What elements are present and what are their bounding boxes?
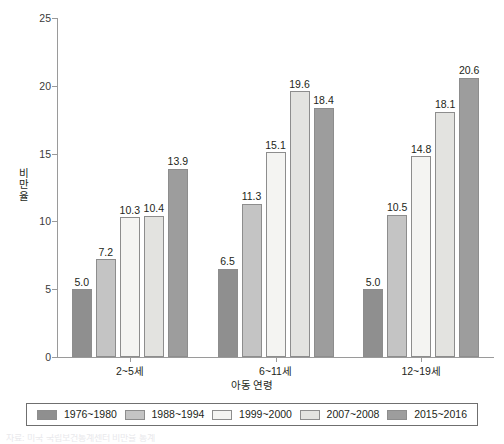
y-tick-mark: [52, 221, 57, 222]
bar-value-label: 18.1: [435, 99, 455, 110]
y-tick-mark: [52, 357, 57, 358]
y-tick-label: 15: [39, 148, 51, 159]
bar: 13.9: [168, 169, 188, 357]
bar: 10.3: [120, 217, 140, 357]
bar: 14.8: [411, 156, 431, 357]
bar: 5.0: [363, 289, 383, 357]
bar-value-label: 6.5: [220, 256, 235, 267]
x-tick-label: 12~19세: [401, 366, 441, 377]
legend-label: 2007~2008: [327, 409, 380, 420]
x-tick-mark: [130, 357, 131, 362]
y-axis-title-char-3: 율: [16, 191, 32, 202]
y-tick-label: 0: [45, 352, 51, 363]
source-note: 자료: 미국 국립보건통계센터 비만율 통계: [6, 434, 155, 442]
x-axis-title: 아동 연령: [0, 377, 504, 392]
legend-label: 1999~2000: [239, 409, 292, 420]
legend-swatch-icon: [300, 410, 320, 420]
bar-value-label: 13.9: [168, 156, 188, 167]
legend-label: 1976~1980: [64, 409, 117, 420]
obesity-rate-bar-chart: 비만율 0510152025 2~5세6~11세12~19세 5.07.210.…: [0, 0, 504, 444]
bar-value-label: 20.6: [459, 65, 479, 76]
y-tick-mark: [52, 86, 57, 87]
legend-item[interactable]: 1988~1994: [125, 409, 205, 420]
y-tick-label: 5: [45, 284, 51, 295]
bar: 15.1: [266, 152, 286, 357]
bar: 18.1: [435, 112, 455, 357]
bar: 11.3: [242, 204, 262, 357]
y-tick-label: 20: [39, 81, 51, 92]
legend-swatch-icon: [212, 410, 232, 420]
legend-swatch-icon: [37, 410, 57, 420]
bar-value-label: 15.1: [265, 140, 285, 151]
legend-label: 1988~1994: [152, 409, 205, 420]
bar: 20.6: [459, 78, 479, 357]
bar-value-label: 5.0: [366, 277, 381, 288]
bar: 6.5: [218, 269, 238, 357]
bar-value-label: 5.0: [75, 277, 90, 288]
legend-label: 2015~2016: [414, 409, 467, 420]
legend-item[interactable]: 1999~2000: [212, 409, 292, 420]
legend-item[interactable]: 2015~2016: [387, 409, 467, 420]
bar: 7.2: [96, 259, 116, 357]
x-tick-mark: [276, 357, 277, 362]
y-axis-title: 비만율: [16, 168, 32, 202]
y-tick-mark: [52, 18, 57, 19]
legend-item[interactable]: 2007~2008: [300, 409, 380, 420]
x-tick-label: 6~11세: [259, 366, 292, 377]
bar-value-label: 14.8: [411, 144, 431, 155]
bar-value-label: 10.3: [120, 205, 140, 216]
x-tick-mark: [421, 357, 422, 362]
bar: 10.4: [144, 216, 164, 357]
bar: 18.4: [314, 108, 334, 358]
x-tick-label: 2~5세: [116, 366, 144, 377]
y-tick-mark: [52, 289, 57, 290]
y-tick-label: 10: [39, 216, 51, 227]
y-axis-line: [57, 18, 58, 357]
bar-value-label: 11.3: [242, 191, 262, 202]
y-tick-label: 25: [39, 13, 51, 24]
chart-legend: 1976~19801988~19941999~20002007~20082015…: [26, 403, 478, 426]
plot-area: 0510152025 2~5세6~11세12~19세 5.07.210.310.…: [57, 18, 494, 357]
bar-value-label: 7.2: [99, 247, 114, 258]
bar-value-label: 10.5: [387, 202, 407, 213]
y-tick-mark: [52, 154, 57, 155]
legend-swatch-icon: [387, 410, 407, 420]
bar: 10.5: [387, 215, 407, 357]
legend-item[interactable]: 1976~1980: [37, 409, 117, 420]
bar-value-label: 10.4: [144, 203, 164, 214]
bar: 19.6: [290, 91, 310, 357]
bar-value-label: 19.6: [289, 79, 309, 90]
legend-swatch-icon: [125, 410, 145, 420]
y-axis-title-char-2: 만: [16, 179, 32, 190]
bar-value-label: 18.4: [313, 95, 333, 106]
bar: 5.0: [72, 289, 92, 357]
